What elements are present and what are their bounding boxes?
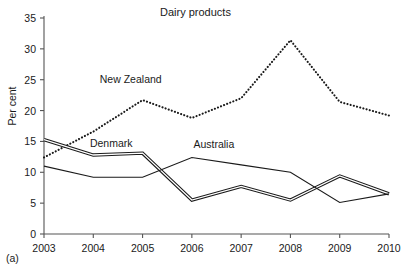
series-line-new-zealand <box>44 40 389 157</box>
panel-tag: (a) <box>6 252 19 264</box>
series-line-australia <box>44 157 389 202</box>
series-line-denmark-outer <box>44 140 389 200</box>
series-line-denmark-inner <box>44 140 389 200</box>
